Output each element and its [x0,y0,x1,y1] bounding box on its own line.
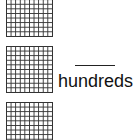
hundreds-label: hundreds [58,71,133,91]
answer-blank[interactable] [75,65,115,66]
hundred-block-3 [6,102,53,140]
hundred-block-2 [6,46,53,93]
hundred-block-1 [6,0,53,37]
